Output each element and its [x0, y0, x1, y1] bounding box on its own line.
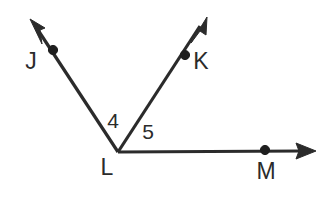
- ray-lj-group: J: [25, 19, 118, 152]
- point-k-dot: [180, 50, 189, 59]
- angle-diagram: J K M L 4 5: [0, 0, 333, 203]
- point-j-label: J: [25, 48, 37, 74]
- vertex-l-label: L: [101, 154, 114, 180]
- point-m-label: M: [256, 158, 275, 184]
- ray-lj-line: [36, 27, 118, 152]
- point-j-dot: [48, 45, 57, 54]
- ray-lk-line: [118, 26, 200, 152]
- ray-lj-arrowhead: [30, 19, 45, 44]
- diagram-canvas: J K M L 4 5: [0, 0, 333, 203]
- point-m-dot: [260, 145, 269, 154]
- ray-lm-arrowhead: [296, 143, 316, 159]
- ray-lk-group: K: [118, 17, 209, 152]
- ray-lm-group: M: [118, 143, 316, 184]
- point-k-label: K: [193, 48, 209, 74]
- ray-lm-line: [118, 151, 301, 152]
- angle-4-label: 4: [107, 109, 119, 132]
- ray-lk-arrowhead: [191, 17, 207, 43]
- angle-5-label: 5: [142, 120, 154, 143]
